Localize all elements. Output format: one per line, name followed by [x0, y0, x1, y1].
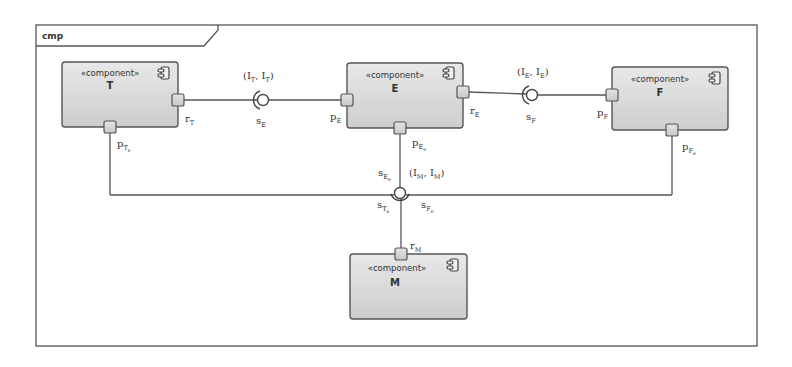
port-rM[interactable] — [395, 248, 407, 260]
label-pFe: pFe — [682, 141, 696, 156]
label-interface-T: (IT, IT) — [243, 70, 274, 84]
label-interface-M: (IM, IM) — [409, 167, 444, 181]
port-pFe[interactable] — [666, 124, 678, 136]
label-pE: pE — [330, 111, 341, 125]
ball-icon — [258, 95, 269, 106]
ball-socket-junction-M[interactable] — [391, 188, 409, 201]
component-stereotype: «component» — [631, 74, 690, 84]
component-F[interactable]: «component» F — [606, 67, 728, 136]
label-rT: rT — [185, 113, 195, 127]
ball-icon — [527, 90, 538, 101]
label-sF: sF — [526, 111, 536, 125]
port-pEe[interactable] — [394, 122, 406, 134]
label-pEe: pEe — [412, 137, 426, 152]
component-name: E — [392, 83, 399, 94]
label-rM: rM — [410, 240, 422, 254]
component-name: F — [657, 87, 664, 98]
label-sE: sE — [256, 115, 266, 129]
component-M[interactable]: «component» M — [350, 248, 467, 319]
label-sEe: sEe — [378, 167, 391, 182]
label-sFe: sFe — [421, 199, 434, 214]
component-stereotype: «component» — [366, 70, 425, 80]
port-pE[interactable] — [341, 94, 353, 106]
port-rT[interactable] — [172, 94, 184, 106]
component-E[interactable]: «component» E — [341, 63, 469, 134]
component-stereotype: «component» — [368, 263, 427, 273]
component-T[interactable]: «component» T — [62, 62, 184, 133]
ball-socket-sF[interactable] — [523, 86, 538, 104]
component-diagram: cmp «component» T «compon — [0, 0, 792, 367]
ball-icon — [395, 188, 406, 199]
component-stereotype: «component» — [81, 68, 140, 78]
component-name: M — [390, 277, 400, 288]
label-sTe: sTe — [377, 199, 389, 214]
component-name: T — [107, 80, 114, 91]
frame-title: cmp — [42, 31, 64, 41]
port-rE[interactable] — [457, 86, 469, 98]
label-rE: rE — [470, 105, 480, 119]
label-pF: pF — [597, 107, 608, 121]
port-pTe[interactable] — [104, 121, 116, 133]
frame-title-tab — [36, 25, 218, 46]
port-pF[interactable] — [606, 89, 618, 101]
line-rE-sF — [468, 92, 526, 94]
label-pTe: pTe — [117, 138, 131, 153]
label-interface-E: (IE, IE) — [517, 66, 549, 80]
